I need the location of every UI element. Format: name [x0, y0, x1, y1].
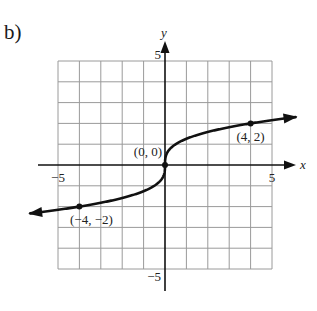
point-label: (4, 2): [237, 129, 265, 144]
x-tick-label: 5: [269, 170, 276, 185]
y-axis-label: y: [159, 25, 167, 40]
x-axis-label: x: [299, 157, 306, 172]
left-arrow-icon: [28, 207, 42, 217]
function-graph: xy −555−5 (−4, −2)(0, 0)(4, 2): [0, 0, 317, 311]
point-label: (0, 0): [134, 144, 162, 159]
x-axis-arrow-icon: [284, 161, 296, 170]
axes: xy: [38, 25, 306, 291]
y-tick-label: −5: [147, 269, 161, 284]
point-marker: [76, 204, 82, 210]
x-tick-label: −5: [51, 170, 65, 185]
y-tick-label: 5: [155, 47, 162, 62]
point-label: (−4, −2): [70, 212, 113, 227]
point-marker: [162, 162, 168, 168]
right-arrow-icon: [283, 114, 298, 124]
point-marker: [248, 120, 254, 126]
labeled-points: (−4, −2)(0, 0)(4, 2): [70, 120, 265, 226]
y-axis-arrow-icon: [161, 41, 170, 53]
